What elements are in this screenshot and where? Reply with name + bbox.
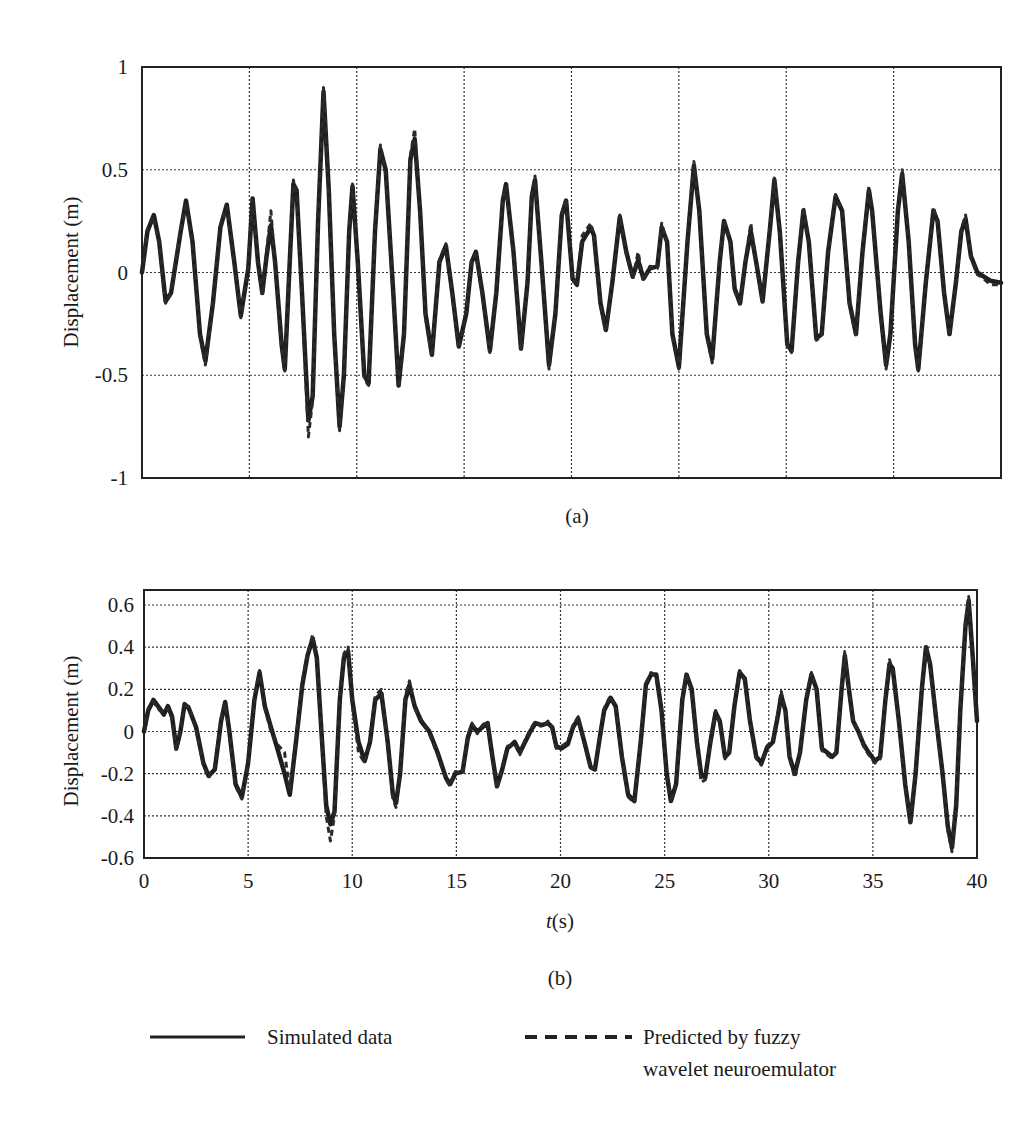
panel-b-x-tick-labels: 0510152025303540 — [139, 869, 988, 893]
panel-b-x-tick-label: 5 — [243, 869, 254, 893]
legend: Simulated data Predicted by fuzzy wavele… — [150, 1025, 836, 1081]
legend-predicted-label-line2: wavelet neuroemulator — [643, 1057, 836, 1081]
panel-a-y-tick-label: -0.5 — [95, 363, 128, 387]
panel-b-x-tick-label: 35 — [862, 869, 883, 893]
figure: 10.50-0.5-1 Displacement (m) (a) 0.60.40… — [0, 0, 1030, 1135]
panel-b-caption: (b) — [548, 966, 573, 990]
panel-b-y-tick-label: -0.6 — [101, 846, 134, 870]
panel-b-y-tick-label: 0.4 — [108, 635, 135, 659]
panel-b-y-tick-label: -0.2 — [101, 762, 134, 786]
panel-b-y-tick-label: 0 — [124, 720, 135, 744]
panel-a-y-tick-label: 0 — [118, 261, 129, 285]
panel-b-chart: 0.60.40.20-0.2-0.4-0.6 0510152025303540 … — [59, 590, 988, 990]
panel-a-y-tick-labels: 10.50-0.5-1 — [95, 55, 128, 490]
panel-b-x-tick-label: 30 — [758, 869, 779, 893]
panel-b-x-axis-label: t(s) — [546, 909, 574, 933]
panel-b-y-tick-label: 0.2 — [108, 677, 134, 701]
legend-simulated-label: Simulated data — [267, 1025, 393, 1049]
panel-b-x-tick-label: 10 — [342, 869, 363, 893]
panel-a-chart: 10.50-0.5-1 Displacement (m) (a) — [59, 55, 1001, 528]
panel-a-y-tick-label: 1 — [118, 55, 129, 79]
panel-b-y-axis-label: Displacement (m) — [59, 655, 83, 806]
panel-a-caption: (a) — [565, 504, 588, 528]
panel-b-y-tick-labels: 0.60.40.20-0.2-0.4-0.6 — [101, 593, 135, 870]
panel-b-x-tick-label: 20 — [550, 869, 571, 893]
panel-b-x-tick-label: 25 — [654, 869, 675, 893]
panel-b-y-tick-label: -0.4 — [101, 804, 135, 828]
panel-b-x-tick-label: 0 — [139, 869, 150, 893]
panel-a-y-tick-label: -1 — [111, 466, 129, 490]
panel-b-x-tick-label: 40 — [967, 869, 988, 893]
panel-a-y-tick-label: 0.5 — [102, 158, 128, 182]
legend-predicted-label-line1: Predicted by fuzzy — [643, 1025, 801, 1049]
panel-a-y-axis-label: Displacement (m) — [59, 196, 83, 347]
panel-b-x-tick-label: 15 — [446, 869, 467, 893]
panel-b-y-tick-label: 0.6 — [108, 593, 134, 617]
